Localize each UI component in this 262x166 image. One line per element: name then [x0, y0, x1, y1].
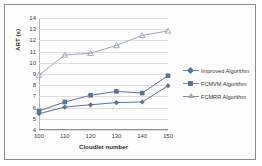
series-line — [39, 86, 168, 114]
y-tick-label: 7 — [16, 93, 36, 99]
y-tick-label: 10 — [16, 60, 36, 66]
series-layer — [39, 18, 168, 130]
chart-frame: ART (s) 4567891011121314 100110120130140… — [4, 4, 256, 160]
y-tick-label: 12 — [16, 37, 36, 43]
x-tick-label: 140 — [137, 133, 147, 139]
line-chart: ART (s) 4567891011121314 100110120130140… — [5, 5, 257, 161]
data-point-marker — [140, 99, 145, 104]
legend-label: FCMRR Algorithm — [201, 94, 246, 100]
y-tick-label: 11 — [16, 49, 36, 55]
legend-marker-square-icon — [183, 79, 199, 88]
data-point-marker — [37, 109, 42, 114]
data-point-marker — [114, 89, 119, 94]
y-tick-label: 13 — [16, 26, 36, 32]
data-point-marker — [140, 91, 145, 96]
legend-item-fcmvm: FCMVM Algorithm — [183, 77, 255, 90]
y-tick-label: 8 — [16, 82, 36, 88]
data-point-marker — [63, 100, 68, 105]
y-tick-label: 14 — [16, 15, 36, 21]
x-tick-label: 150 — [163, 133, 173, 139]
data-point-marker — [88, 102, 93, 107]
data-point-marker — [165, 28, 171, 33]
data-point-marker — [165, 83, 170, 88]
legend-marker-triangle-icon — [183, 92, 199, 101]
x-tick-label: 110 — [60, 133, 70, 139]
legend-label: Improved Algorithm — [201, 68, 249, 74]
data-point-marker — [114, 100, 119, 105]
y-tick-label: 9 — [16, 71, 36, 77]
x-tick-label: 120 — [86, 133, 96, 139]
chart-legend: Improved Algorithm FCMVM Algorithm FCMRR… — [183, 64, 255, 103]
plot-area: 4567891011121314 100110120130140150 — [39, 18, 168, 130]
gridline — [39, 130, 168, 131]
legend-item-fcmrr: FCMRR Algorithm — [183, 90, 255, 103]
data-point-marker — [62, 104, 67, 109]
legend-marker-diamond-icon — [183, 66, 199, 75]
y-tick-label: 5 — [16, 116, 36, 122]
data-point-marker — [166, 73, 171, 78]
series-line — [39, 76, 168, 111]
data-point-marker — [88, 93, 93, 98]
x-axis-label: Cloudlet number — [39, 143, 168, 150]
legend-item-improved: Improved Algorithm — [183, 64, 255, 77]
legend-label: FCMVM Algorithm — [201, 81, 246, 87]
x-tick-label: 130 — [111, 133, 121, 139]
x-tick-label: 100 — [34, 133, 44, 139]
series-line — [39, 31, 168, 75]
y-tick-label: 6 — [16, 105, 36, 111]
